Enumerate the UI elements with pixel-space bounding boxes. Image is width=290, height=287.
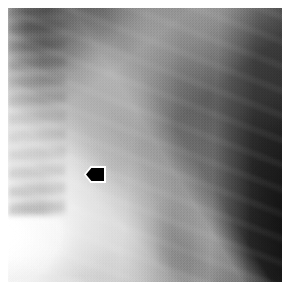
spine-region bbox=[8, 8, 66, 216]
radiograph-image bbox=[8, 8, 282, 282]
radiograph-figure bbox=[0, 0, 290, 287]
arrow-annotation-icon bbox=[84, 166, 106, 183]
